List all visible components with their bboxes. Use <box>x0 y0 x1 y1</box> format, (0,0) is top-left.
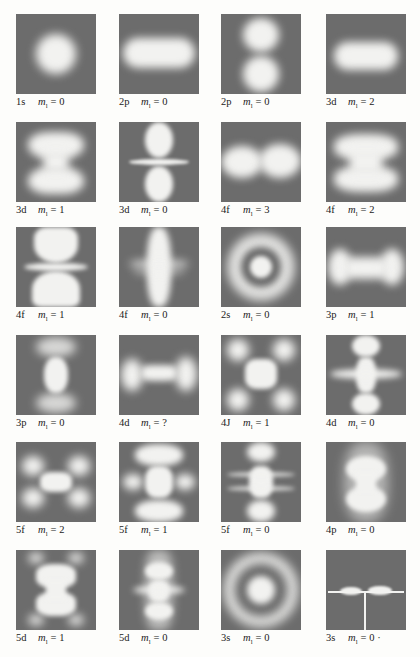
orbital-image <box>326 227 406 307</box>
orbital-image <box>326 122 406 202</box>
orbital-image <box>119 122 199 202</box>
orbital-image <box>326 442 406 522</box>
orbital-image <box>119 14 199 94</box>
orbital-image <box>326 335 406 415</box>
orbital-label: 5dml = 0 <box>119 632 201 646</box>
orbital-cell-4f-m0: 4fml = 0 <box>119 227 201 323</box>
orbital-cell-2p-horizontal: 2pml = 0 <box>119 14 201 110</box>
orbital-image <box>221 122 301 202</box>
orbital-cell-5f-m0: 5fml = 0 <box>221 442 303 538</box>
orbital-label: 3dml = 1 <box>16 204 98 218</box>
orbital-image <box>119 550 199 630</box>
orbital-label: 2sml = 0 <box>221 309 303 323</box>
orbital-label: 4fml = 1 <box>16 309 98 323</box>
orbital-cell-3d-m1: 3dml = 1 <box>16 122 98 218</box>
orbital-label: 4dml = ? <box>119 417 201 431</box>
orbital-label: 4fml = 0 <box>119 309 201 323</box>
orbital-cell-3p-m0: 3pml = 0 <box>16 335 98 431</box>
orbital-cell-5d-m1: 5dml = 1 <box>16 550 98 646</box>
orbital-cell-3p-m1: 3pml = 1 <box>326 227 408 323</box>
orbital-image <box>119 335 199 415</box>
orbital-image <box>221 550 301 630</box>
orbital-cell-3d-m2: 3dml = 2 <box>326 14 408 110</box>
orbital-image <box>16 122 96 202</box>
orbital-cell-2s: 2sml = 0 <box>221 227 303 323</box>
orbital-label: 4dml = 0 <box>326 417 408 431</box>
orbital-label: 4fml = 2 <box>326 204 408 218</box>
orbital-label: 4pml = 0 <box>326 524 408 538</box>
orbital-label: 1sml = 0 <box>16 96 98 110</box>
orbital-label: 4fml = 3 <box>221 204 303 218</box>
orbital-cell-1s: 1sml = 0 <box>16 14 98 110</box>
orbital-cell-5f-m1: 5fml = 1 <box>119 442 201 538</box>
orbital-cell-5f-m2: 5fml = 2 <box>16 442 98 538</box>
orbital-cell-4d-m1: 4Jml = 1 <box>221 335 303 431</box>
orbital-image <box>16 550 96 630</box>
orbital-label: 3dml = 2 <box>326 96 408 110</box>
orbital-image <box>221 335 301 415</box>
orbital-image <box>221 442 301 522</box>
orbital-image <box>16 335 96 415</box>
orbital-label: 5fml = 0 <box>221 524 303 538</box>
orbital-image <box>221 227 301 307</box>
orbital-label: 4Jml = 1 <box>221 417 303 431</box>
orbital-label: 3pml = 0 <box>16 417 98 431</box>
orbital-image <box>16 227 96 307</box>
orbital-label: 5dml = 1 <box>16 632 98 646</box>
orbital-label: 3dml = 0 <box>119 204 201 218</box>
orbital-label: 5fml = 1 <box>119 524 201 538</box>
orbital-label: 3sml = 0 <box>221 632 303 646</box>
orbital-image <box>326 14 406 94</box>
orbital-cell-4d-m0: 4dml = 0 <box>326 335 408 431</box>
orbital-cell-3d-m0: 3dml = 0 <box>119 122 201 218</box>
orbital-cell-4f-m1: 4fml = 1 <box>16 227 98 323</box>
orbital-image <box>326 550 406 630</box>
orbital-cell-5d-m0: 5dml = 0 <box>119 550 201 646</box>
orbital-label: 3sml = 0 · <box>326 632 408 646</box>
orbital-image <box>221 14 301 94</box>
orbital-image <box>16 14 96 94</box>
orbital-image <box>119 442 199 522</box>
orbital-cell-3s-radial-plot: 3sml = 0 · <box>326 550 408 646</box>
orbital-cell-2p-vertical: 2pml = 0 <box>221 14 303 110</box>
orbital-image <box>16 442 96 522</box>
orbital-cell-4f-m3: 4fml = 3 <box>221 122 303 218</box>
orbital-cell-4d-m-unknown: 4dml = ? <box>119 335 201 431</box>
orbital-cell-4p-m0: 4pml = 0 <box>326 442 408 538</box>
orbital-cell-3s: 3sml = 0 <box>221 550 303 646</box>
orbital-label: 5fml = 2 <box>16 524 98 538</box>
orbital-image <box>119 227 199 307</box>
orbital-label: 3pml = 1 <box>326 309 408 323</box>
orbital-label: 2pml = 0 <box>119 96 201 110</box>
orbital-cell-4f-m2: 4fml = 2 <box>326 122 408 218</box>
orbital-label: 2pml = 0 <box>221 96 303 110</box>
